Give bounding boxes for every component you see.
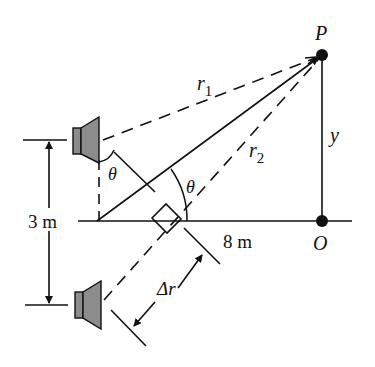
- label-r2: r2: [249, 139, 264, 166]
- label-distance: 8 m: [223, 231, 252, 252]
- speaker-bottom-icon: [75, 281, 101, 329]
- label-p: P: [314, 22, 327, 44]
- delta-r-arrow: [178, 255, 202, 288]
- label-y: y: [328, 124, 339, 147]
- perpendicular-tick-right: [184, 228, 220, 264]
- interference-diagram: P O y r1 r2 θ θ 3 m 8 m Δr: [0, 0, 375, 367]
- label-o: O: [313, 232, 327, 254]
- perpendicular-tick-bottom: [111, 310, 146, 346]
- point-p-dot: [316, 49, 328, 61]
- theta-arc-top: [99, 150, 114, 162]
- speaker-top-icon: [73, 117, 99, 163]
- point-o-dot: [316, 215, 328, 227]
- label-theta-center: θ: [186, 177, 195, 197]
- label-delta-r: Δr: [156, 278, 176, 299]
- label-r1: r1: [197, 72, 212, 99]
- delta-r-arrow-2: [134, 302, 155, 326]
- theta-arc-center: [171, 169, 187, 221]
- label-separation: 3 m: [28, 211, 57, 232]
- label-theta-top: θ: [108, 164, 117, 184]
- perpendicular-tick-top: [114, 152, 155, 192]
